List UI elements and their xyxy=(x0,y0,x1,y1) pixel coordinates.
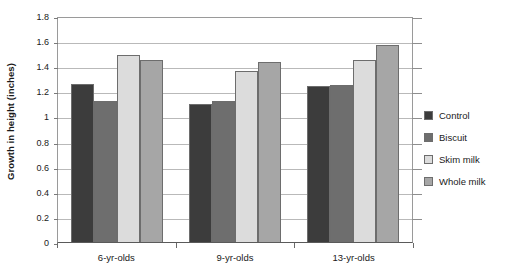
x-axis-tick-mark xyxy=(57,243,58,248)
bar xyxy=(71,84,94,242)
bar xyxy=(189,104,212,242)
y-axis-tick-label: 1.4 xyxy=(36,62,49,72)
bar-group xyxy=(176,18,294,242)
legend-item: Control xyxy=(424,104,509,126)
x-axis-tick-mark xyxy=(176,243,177,248)
y-axis-tick-mark-right xyxy=(412,68,422,69)
plot-area xyxy=(57,17,413,243)
y-axis-title: Growth in height (inches) xyxy=(0,0,22,243)
legend-label: Whole milk xyxy=(439,176,485,187)
bar xyxy=(353,60,376,242)
legend-item: Biscuit xyxy=(424,126,509,148)
legend-swatch xyxy=(424,177,433,186)
bar xyxy=(330,85,353,242)
bar xyxy=(235,71,258,242)
x-axis-tick-label: 6-yr-olds xyxy=(98,252,135,263)
y-axis-tick-label: 0.4 xyxy=(36,188,49,198)
y-axis-tick-mark-right xyxy=(412,219,422,220)
bar xyxy=(258,62,281,242)
y-axis-tick-label: 1.2 xyxy=(36,87,49,97)
y-axis-tick-mark-right xyxy=(412,194,422,195)
y-axis-tick-label: 1 xyxy=(44,112,49,122)
bar-group xyxy=(58,18,176,242)
bar-group xyxy=(294,18,412,242)
y-axis-title-text: Growth in height (inches) xyxy=(6,63,17,180)
legend-item: Whole milk xyxy=(424,170,509,192)
legend-label: Skim milk xyxy=(439,154,480,165)
y-axis-tick-label: 0.6 xyxy=(36,163,49,173)
y-axis-tick-mark-right xyxy=(412,43,422,44)
bar xyxy=(117,55,140,242)
y-axis-tick-mark-right xyxy=(412,144,422,145)
x-axis-tick-label: 9-yr-olds xyxy=(217,252,254,263)
y-axis-tick-mark-right xyxy=(412,169,422,170)
y-axis-tick-mark-right xyxy=(412,18,422,19)
legend: ControlBiscuitSkim milkWhole milk xyxy=(424,104,509,192)
bar-groups xyxy=(58,18,412,242)
legend-label: Control xyxy=(439,110,470,121)
x-axis-tick-mark xyxy=(413,243,414,248)
x-axis-tick-mark xyxy=(294,243,295,248)
y-axis-tick-mark-right xyxy=(412,93,422,94)
legend-label: Biscuit xyxy=(439,132,467,143)
y-axis-tick-labels: 00.20.40.60.811.21.41.61.8 xyxy=(22,17,53,243)
y-axis-tick-label: 0.2 xyxy=(36,213,49,223)
bar xyxy=(140,60,163,242)
legend-swatch xyxy=(424,133,433,142)
y-axis-tick-label: 0 xyxy=(44,238,49,248)
y-axis-tick-label: 1.8 xyxy=(36,12,49,22)
x-axis-tick-label: 13-yr-olds xyxy=(333,252,375,263)
bar xyxy=(307,86,330,242)
y-axis-tick-label: 0.8 xyxy=(36,138,49,148)
legend-item: Skim milk xyxy=(424,148,509,170)
bar xyxy=(212,101,235,242)
legend-swatch xyxy=(424,155,433,164)
legend-swatch xyxy=(424,111,433,120)
y-axis-tick-mark-right xyxy=(412,118,422,119)
bar-chart: Growth in height (inches) 00.20.40.60.81… xyxy=(0,0,511,279)
bar xyxy=(94,101,117,242)
bar xyxy=(376,45,399,242)
y-axis-tick-label: 1.6 xyxy=(36,37,49,47)
